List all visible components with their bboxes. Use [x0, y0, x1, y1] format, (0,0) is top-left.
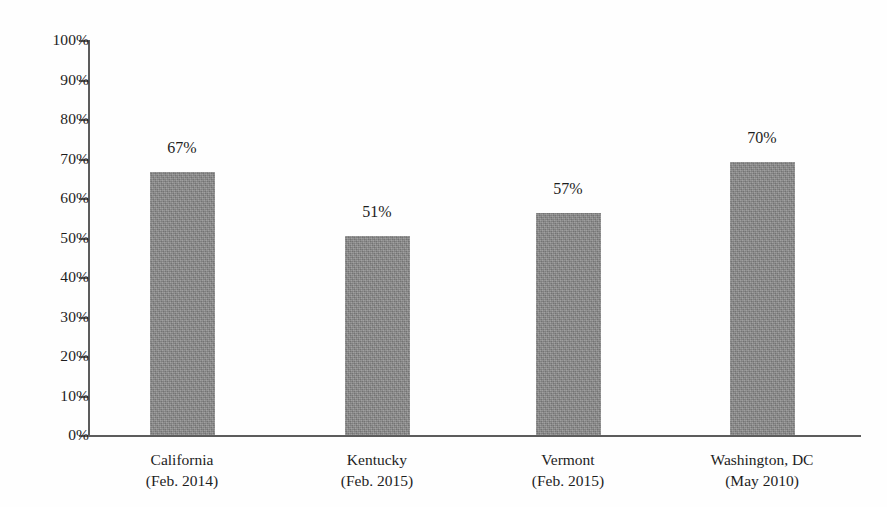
x-axis-label: Kentucky(Feb. 2015)	[287, 449, 467, 491]
y-tick-label: 70%	[21, 151, 89, 167]
x-axis-label-name: Vermont	[478, 449, 658, 470]
bar-value-label: 70%	[702, 130, 822, 146]
x-axis-label-name: California	[92, 449, 272, 470]
x-axis-label-date: (Feb. 2015)	[287, 470, 467, 491]
y-tick-label: 90%	[21, 72, 89, 88]
y-tick-label: 0%	[21, 427, 89, 443]
y-tick-label: 50%	[21, 230, 89, 246]
y-tick-label: 40%	[21, 269, 89, 285]
x-axis-label-name: Washington, DC	[672, 449, 852, 470]
x-axis-label-date: (May 2010)	[672, 470, 852, 491]
y-tick-label: 30%	[21, 309, 89, 325]
bar-value-label: 51%	[317, 204, 437, 220]
y-tick-label: 10%	[21, 388, 89, 404]
y-tick-label: 20%	[21, 348, 89, 364]
bar[interactable]	[730, 162, 795, 435]
bar-chart: 0%10%20%30%40%50%60%70%80%90%100% 67%51%…	[0, 0, 887, 507]
x-axis-label: Vermont(Feb. 2015)	[478, 449, 658, 491]
chart-page: 0%10%20%30%40%50%60%70%80%90%100% 67%51%…	[0, 0, 887, 507]
x-axis-label: Washington, DC(May 2010)	[672, 449, 852, 491]
x-axis-label: California(Feb. 2014)	[92, 449, 272, 491]
x-axis-label-date: (Feb. 2015)	[478, 470, 658, 491]
y-tick-label: 100%	[21, 32, 89, 48]
bar[interactable]	[150, 172, 215, 435]
y-tick-label: 80%	[21, 111, 89, 127]
bar[interactable]	[536, 213, 601, 435]
bar-value-label: 67%	[122, 140, 242, 156]
bar[interactable]	[345, 236, 410, 435]
x-axis-label-name: Kentucky	[287, 449, 467, 470]
y-tick-label: 60%	[21, 190, 89, 206]
x-axis-line	[88, 435, 861, 437]
bar-value-label: 57%	[508, 181, 628, 197]
x-axis-label-date: (Feb. 2014)	[92, 470, 272, 491]
